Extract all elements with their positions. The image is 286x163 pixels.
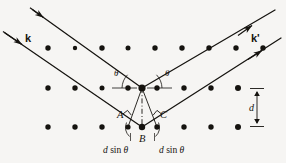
lattice-dot (126, 46, 131, 51)
lattice-dot (152, 45, 157, 50)
pd-left-sin: sin (110, 145, 121, 155)
bragg-diffraction-figure: k k' θ θ A B C d d sin θ d sin θ (0, 0, 286, 163)
lattice-dot (235, 85, 241, 91)
lattice-dot (208, 85, 213, 90)
lattice-dot (73, 46, 77, 50)
incident-wavevector-label: k (25, 33, 31, 44)
pd-right-sin: sin (166, 145, 177, 155)
reflection-angle-label: θ (165, 69, 169, 78)
interplanar-spacing-label: d (249, 103, 254, 113)
point-c-label: C (160, 110, 167, 121)
point-a-label: A (117, 110, 123, 121)
pd-left-theta: θ (124, 145, 129, 155)
lattice-dot (179, 45, 184, 50)
spacing-arrowhead-top (254, 91, 260, 96)
lattice-dot (235, 124, 241, 130)
segment-center-to-a (128, 88, 142, 127)
lattice-dots-row-top (45, 45, 265, 50)
segment-center-to-c (142, 88, 157, 127)
arrowhead-incident-lower (3, 32, 22, 45)
lattice-dot (99, 45, 104, 50)
path-difference-right-label: d sin θ (159, 146, 184, 156)
lattice-dot (181, 124, 186, 129)
ray-arrowheads (3, 8, 262, 60)
lattice-dot (72, 124, 77, 129)
lattice-dot (100, 86, 105, 91)
lattice-dot (233, 45, 238, 50)
pd-left-d: d (103, 145, 108, 155)
lattice-dot (181, 85, 186, 90)
arrowhead-incident-upper (30, 8, 44, 18)
lattice-dot (99, 124, 104, 129)
arrowhead-scattered-lower (248, 51, 262, 60)
pd-right-d: d (159, 145, 164, 155)
lattice-dot (45, 124, 50, 129)
lattice-dot (45, 45, 50, 50)
scattered-wavevector-label: k' (251, 33, 260, 44)
pd-right-theta: θ (180, 145, 185, 155)
lattice-dot (208, 124, 213, 129)
incidence-angle-label: θ (114, 69, 118, 78)
path-difference-triangle (128, 88, 157, 127)
point-b-label: B (139, 134, 145, 145)
lattice-dot (45, 85, 50, 90)
spacing-arrowhead-bottom (254, 119, 260, 124)
scattered-ray-upper (142, 10, 275, 88)
lattice-dot (72, 85, 77, 90)
ray-lines (5, 10, 281, 127)
path-difference-left-label: d sin θ (103, 146, 128, 156)
